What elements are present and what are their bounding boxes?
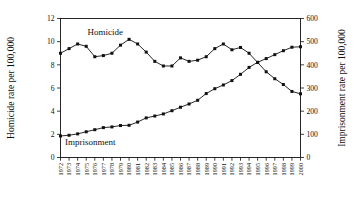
x-axis-tick-label: 1979 bbox=[117, 163, 124, 175]
data-point-homicide-1982 bbox=[145, 51, 148, 54]
data-point-imprisonment-1990 bbox=[213, 87, 216, 90]
x-axis-tick-label: 1976 bbox=[91, 163, 98, 175]
y-axis-tick-label: 10 bbox=[47, 37, 55, 46]
x-axis-tick-label: 1974 bbox=[74, 163, 81, 175]
data-point-homicide-1976 bbox=[93, 55, 96, 58]
data-point-homicide-1998 bbox=[282, 83, 285, 86]
data-point-imprisonment-1980 bbox=[128, 124, 131, 127]
x-axis-tick-label: 2000 bbox=[297, 163, 304, 175]
y2-axis-tick-label: 500 bbox=[307, 37, 319, 46]
data-point-homicide-1989 bbox=[205, 55, 208, 58]
y-axis-tick-label: 12 bbox=[47, 14, 55, 23]
data-point-imprisonment-1984 bbox=[162, 112, 165, 115]
data-point-imprisonment-1974 bbox=[76, 132, 79, 135]
data-point-homicide-1977 bbox=[102, 54, 105, 57]
x-axis-tick-label: 1986 bbox=[177, 163, 184, 175]
x-axis-tick-label: 1989 bbox=[203, 163, 210, 175]
data-point-imprisonment-1997 bbox=[273, 53, 276, 56]
data-point-homicide-1972 bbox=[59, 52, 62, 55]
x-axis-tick-label: 1994 bbox=[245, 163, 252, 175]
y2-axis-tick-label: 600 bbox=[307, 14, 319, 23]
x-axis-tick-label: 1997 bbox=[271, 163, 278, 175]
data-point-homicide-1990 bbox=[213, 47, 216, 50]
y2-axis-tick-label: 200 bbox=[307, 107, 319, 116]
data-point-imprisonment-1986 bbox=[179, 106, 182, 109]
x-axis-tick-label: 1991 bbox=[220, 163, 227, 175]
data-point-imprisonment-1991 bbox=[222, 83, 225, 86]
x-axis-tick-label: 1999 bbox=[288, 163, 295, 175]
data-point-homicide-1988 bbox=[196, 59, 199, 62]
data-point-imprisonment-1989 bbox=[205, 92, 208, 95]
data-point-homicide-1986 bbox=[179, 56, 182, 59]
data-point-imprisonment-1988 bbox=[196, 99, 199, 102]
data-point-homicide-2000 bbox=[299, 92, 302, 95]
chart-container: 0246810120100200300400500600197219731974… bbox=[0, 0, 356, 197]
data-point-homicide-1973 bbox=[68, 47, 71, 50]
x-axis-tick-label: 1987 bbox=[185, 163, 192, 175]
data-point-imprisonment-1987 bbox=[188, 102, 191, 105]
y-axis-tick-label: 8 bbox=[51, 61, 55, 70]
x-axis-tick-label: 1982 bbox=[143, 163, 150, 175]
data-point-imprisonment-1973 bbox=[68, 134, 71, 137]
data-point-homicide-1997 bbox=[273, 77, 276, 80]
data-point-imprisonment-1994 bbox=[248, 66, 251, 69]
x-axis-tick-label: 1972 bbox=[57, 163, 64, 175]
series-line-imprisonment bbox=[61, 47, 301, 136]
x-axis-tick-label: 1983 bbox=[151, 163, 158, 175]
data-point-homicide-1999 bbox=[290, 90, 293, 93]
x-axis-tick-label: 1981 bbox=[134, 163, 141, 175]
data-point-imprisonment-1999 bbox=[290, 46, 293, 49]
data-point-imprisonment-1995 bbox=[256, 61, 259, 64]
x-axis-tick-label: 1985 bbox=[168, 163, 175, 175]
data-point-homicide-1975 bbox=[85, 45, 88, 48]
data-point-imprisonment-1976 bbox=[93, 128, 96, 131]
x-axis-tick-label: 1978 bbox=[108, 163, 115, 175]
data-point-homicide-1978 bbox=[110, 52, 113, 55]
y2-axis-title: Imprisonment rate per 100,000 bbox=[337, 29, 347, 147]
data-point-homicide-1980 bbox=[128, 38, 131, 41]
y2-axis-tick-label: 400 bbox=[307, 61, 319, 70]
data-point-homicide-1974 bbox=[76, 42, 79, 45]
data-point-homicide-1981 bbox=[136, 42, 139, 45]
y-axis-tick-label: 6 bbox=[51, 84, 55, 93]
data-point-homicide-1994 bbox=[248, 52, 251, 55]
x-axis-tick-label: 1996 bbox=[263, 163, 270, 175]
y2-axis-tick-label: 0 bbox=[307, 153, 311, 162]
x-axis-tick-label: 1988 bbox=[194, 163, 201, 175]
data-point-homicide-1979 bbox=[119, 44, 122, 47]
x-axis-tick-label: 1973 bbox=[65, 163, 72, 175]
x-axis-tick-label: 1993 bbox=[237, 163, 244, 175]
data-point-imprisonment-1993 bbox=[239, 73, 242, 76]
y2-axis-tick-label: 300 bbox=[307, 84, 319, 93]
data-point-imprisonment-1982 bbox=[145, 116, 148, 119]
x-axis-tick-label: 1977 bbox=[100, 163, 107, 175]
data-point-imprisonment-1978 bbox=[110, 125, 113, 128]
data-point-imprisonment-1975 bbox=[85, 130, 88, 133]
data-point-imprisonment-1985 bbox=[170, 109, 173, 112]
data-point-imprisonment-1992 bbox=[230, 79, 233, 82]
data-point-imprisonment-1981 bbox=[136, 121, 139, 124]
data-point-imprisonment-1979 bbox=[119, 124, 122, 127]
series-annotation-homicide: Homicide bbox=[88, 27, 124, 37]
data-point-homicide-1993 bbox=[239, 46, 242, 49]
data-point-homicide-1985 bbox=[170, 64, 173, 67]
series-annotation-imprisonment: Imprisonment bbox=[65, 137, 116, 147]
homicide-imprisonment-line-chart: 0246810120100200300400500600197219731974… bbox=[0, 0, 356, 197]
data-point-imprisonment-1977 bbox=[102, 126, 105, 129]
data-point-homicide-1992 bbox=[230, 48, 233, 51]
data-point-imprisonment-1996 bbox=[265, 57, 268, 60]
data-point-homicide-1987 bbox=[188, 60, 191, 63]
x-axis-tick-label: 1980 bbox=[125, 163, 132, 175]
y2-axis-tick-label: 100 bbox=[307, 130, 319, 139]
data-point-imprisonment-2000 bbox=[299, 45, 302, 48]
x-axis-tick-label: 1992 bbox=[228, 163, 235, 175]
x-axis-tick-label: 1998 bbox=[280, 163, 287, 175]
data-point-homicide-1984 bbox=[162, 64, 165, 67]
y-axis-tick-label: 2 bbox=[51, 130, 55, 139]
x-axis-tick-label: 1990 bbox=[211, 163, 218, 175]
data-point-homicide-1991 bbox=[222, 42, 225, 45]
x-axis-tick-label: 1975 bbox=[83, 163, 90, 175]
data-point-imprisonment-1972 bbox=[59, 134, 62, 137]
y-axis-tick-label: 4 bbox=[51, 107, 55, 116]
data-point-imprisonment-1998 bbox=[282, 49, 285, 52]
